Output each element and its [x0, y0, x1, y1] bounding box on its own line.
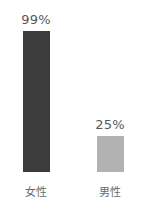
bar-group-female: 99% — [5, 0, 67, 172]
bar-female — [23, 31, 50, 172]
bar-group-male: 25% — [79, 0, 141, 172]
value-label-female: 99% — [21, 13, 51, 26]
value-label-male: 25% — [95, 118, 125, 131]
bar-male — [97, 136, 124, 172]
category-label-female: 女性 — [5, 187, 67, 198]
bar-chart: 99% 25% 女性 男性 — [0, 0, 162, 208]
category-label-male: 男性 — [79, 187, 141, 198]
plot-area: 99% 25% 女性 男性 — [0, 0, 162, 208]
